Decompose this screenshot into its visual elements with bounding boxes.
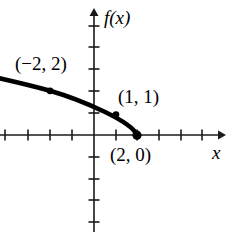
annotation-point-1-1: (1, 1) xyxy=(118,87,159,106)
data-point-neg2-2 xyxy=(47,87,54,94)
data-point-2-0 xyxy=(132,131,141,140)
x-axis-label: x xyxy=(212,143,220,162)
annotation-point-2-0: (2, 0) xyxy=(110,145,151,164)
annotation-point-neg2-2: (−2, 2) xyxy=(15,54,67,73)
y-axis-arrowhead xyxy=(90,8,99,16)
x-axis-arrowhead xyxy=(218,131,226,140)
y-axis-label: f(x) xyxy=(104,8,130,27)
data-point-1-1 xyxy=(113,111,120,118)
coordinate-plane xyxy=(0,0,241,232)
graph-figure: (−2, 2) (1, 1) (2, 0) f(x) x xyxy=(0,0,241,232)
function-curve xyxy=(0,78,137,135)
